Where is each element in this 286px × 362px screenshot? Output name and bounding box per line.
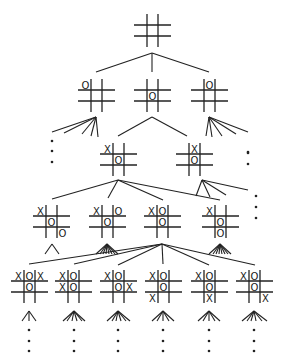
tree-edge [196, 180, 202, 196]
board-L4b: XOXO [55, 270, 92, 303]
ellipsis-dots [162, 329, 165, 353]
x-mark: X [15, 271, 22, 282]
o-mark: O [115, 271, 123, 282]
board-root [134, 14, 171, 47]
x-mark: X [149, 271, 156, 282]
x-mark: X [37, 271, 44, 282]
o-mark: O [206, 282, 214, 293]
ellipsis-dots [255, 195, 258, 220]
o-mark: O [217, 228, 225, 239]
o-mark: O [251, 271, 259, 282]
o-mark: O [70, 282, 78, 293]
x-mark: X [206, 293, 213, 304]
tree-edge [118, 180, 220, 200]
x-mark: X [104, 271, 111, 282]
board-L2b: XO [176, 143, 213, 176]
board-L1b: O [134, 79, 171, 112]
tree-edge [118, 117, 152, 136]
x-mark: X [126, 282, 133, 293]
o-mark: O [70, 271, 78, 282]
o-mark: O [217, 217, 225, 228]
branch-fan [242, 311, 267, 321]
x-mark: X [240, 271, 247, 282]
x-mark: X [149, 293, 156, 304]
board-L3c: XOO [144, 205, 181, 238]
tree-edge [162, 244, 163, 264]
ellipsis-dots [28, 329, 31, 353]
board-L4e: XOOX [191, 270, 228, 304]
o-mark: O [115, 282, 123, 293]
x-mark: X [59, 271, 66, 282]
o-mark: O [206, 80, 214, 91]
tree-edge [64, 117, 96, 133]
board-L4a: XOXO [11, 270, 48, 303]
x-mark: X [262, 293, 269, 304]
board-L1c: O [191, 79, 228, 112]
tree-edge [52, 180, 118, 199]
o-mark: O [251, 282, 259, 293]
o-mark: O [160, 271, 168, 282]
x-mark: X [191, 144, 198, 155]
ellipsis-dots [51, 140, 54, 164]
game-tree-diagram: OOOXOXOXOOXOOXOOXOOXOXOXOXOXOOXXOOXXOOXX… [0, 0, 286, 362]
branch-fan [198, 311, 220, 321]
board-L4d: XOOX [145, 270, 182, 304]
o-mark: O [159, 206, 167, 217]
ellipsis-dots [208, 329, 211, 353]
ellipsis-dots [117, 329, 120, 353]
o-mark: O [82, 80, 90, 91]
branch-fan [152, 311, 174, 321]
ellipsis-dots [247, 151, 250, 166]
tree-edge [96, 117, 98, 137]
o-mark: O [115, 155, 123, 166]
o-mark: O [160, 282, 168, 293]
o-mark: O [149, 91, 157, 102]
o-mark: O [48, 217, 56, 228]
o-mark: O [115, 206, 123, 217]
x-mark: X [206, 206, 213, 217]
x-mark: X [195, 271, 202, 282]
branch-fan [45, 244, 59, 254]
tree-edge [152, 117, 187, 136]
x-mark: X [93, 206, 100, 217]
x-mark: X [148, 206, 155, 217]
branch-fan [22, 311, 36, 321]
tree-edge [118, 180, 163, 200]
branch-fan [63, 311, 85, 321]
x-mark: X [59, 282, 66, 293]
ellipsis-dots [73, 329, 76, 353]
o-mark: O [59, 228, 67, 239]
board-L2a: XO [100, 143, 137, 176]
branch-fan [107, 311, 130, 321]
x-mark: X [37, 206, 44, 217]
o-mark: O [206, 271, 214, 282]
tree-edge [162, 244, 255, 265]
board-L3d: XOO [202, 205, 239, 239]
board-L3b: XOO [89, 205, 126, 238]
board-L1a: O [78, 79, 115, 112]
x-mark: X [104, 144, 111, 155]
tree-edge [162, 244, 209, 265]
o-mark: O [26, 282, 34, 293]
o-mark: O [104, 217, 112, 228]
o-mark: O [26, 271, 34, 282]
tree-edge [152, 53, 209, 72]
board-L4f: XOOX [236, 270, 273, 304]
o-mark: O [159, 217, 167, 228]
tree-edge [96, 53, 152, 72]
board-L4c: XOOX [100, 270, 137, 303]
branch-fan [209, 244, 231, 254]
board-L3a: XOO [33, 205, 70, 239]
o-mark: O [191, 155, 199, 166]
tree-edge [202, 180, 248, 190]
tree-edge [206, 117, 209, 136]
ellipsis-dots [253, 329, 256, 353]
